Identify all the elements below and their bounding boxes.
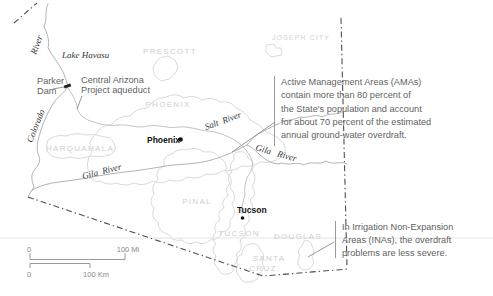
region-label-santa-cruz-line1: SANTA [253,254,286,263]
ama-callout-line4: for about 70 percent of the estimated [281,117,431,127]
region-label-tucson-ama: TUCSON [218,229,260,238]
aqueduct-label-line1: Central Arizona [81,75,145,85]
parker-dam-label-line2: Dam [37,86,57,96]
region-label-pinal: PINAL [182,197,212,206]
gila-river-label-east: Gila River [254,142,298,163]
parker-dam-label-line1: Parker [37,76,64,86]
scale-bar-km [30,264,90,269]
colorado-river-path [28,4,68,197]
state-border-northwest [14,3,37,23]
salt-river-label: Salt River [203,109,243,132]
scale-miles-zero-label: 0 [27,245,31,254]
scale-km-max-label: 100 Km [83,270,109,279]
arizona-water-management-map: 0 100 Mi 0 100 Km PRESCOTT JOSEPH CITY P… [0,0,493,296]
region-label-douglas: DOUGLAS [274,232,322,241]
tucson-city-dot [241,216,245,220]
phoenix-city-label: Phoenix [147,135,180,145]
ina-callout-line3: problems are less severe. [342,248,447,258]
ina-callout-line2: Areas (INAs), the overdraft [342,235,452,245]
scale-miles-max-label: 100 Mi [117,245,140,254]
region-label-prescott: PRESCOTT [143,47,197,56]
joseph-city-ina-outline [266,44,282,57]
scale-bar-miles [30,253,125,260]
map-canvas: 0 100 Mi 0 100 Km PRESCOTT JOSEPH CITY P… [0,0,493,296]
ama-callout-line3: the State's population and account [281,104,422,114]
ina-callout-line1: In Irrigation Non-Expansion [342,222,453,232]
ama-callout: Active Management Areas (AMAs) contain m… [281,77,431,140]
lake-havasu-label: Lake Havasu [61,50,110,60]
ama-callout-line1: Active Management Areas (AMAs) [281,77,421,87]
region-label-santa-cruz-line2: CRUZ [249,264,276,273]
ama-callout-line5: annual ground-water overdraft. [281,130,407,140]
phoenix-city-dot [178,137,183,142]
region-label-phoenix-ama: PHOENIX [145,100,190,109]
region-label-harquahala: HARQUAHALA [46,144,114,153]
ina-callout: In Irrigation Non-Expansion Areas (INAs)… [342,222,453,259]
tucson-city-label: Tucson [237,205,267,215]
aqueduct-leader-line [77,96,82,109]
region-label-joseph-city: JOSEPH CITY [272,34,330,41]
aqueduct-label-line2: Project aqueduct [81,85,150,95]
prescott-ama-outline [153,56,178,81]
colorado-river-label-lower: Colorado [25,108,47,144]
scale-km-zero-label: 0 [27,270,31,279]
colorado-river-label-upper: River [28,33,45,56]
ama-callout-line2: contain more than 80 percent of [281,90,411,100]
